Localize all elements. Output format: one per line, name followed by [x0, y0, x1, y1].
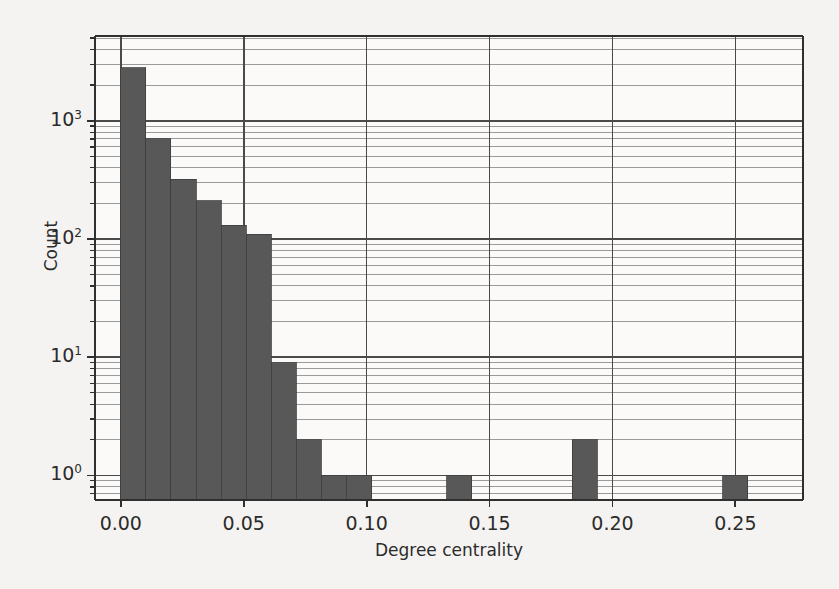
histogram-figure: Count Degree centrality 0.000.050.100.15… [0, 0, 839, 589]
y-tick-label: 102 [0, 226, 82, 248]
histogram-bar [196, 201, 221, 500]
y-tick-exponent: 2 [74, 226, 82, 240]
histogram-bar [321, 475, 346, 500]
x-tick-label: 0.15 [430, 512, 550, 534]
x-axis-label: Degree centrality [95, 540, 803, 560]
y-tick-mantissa: 10 [50, 463, 74, 485]
histogram-bar [146, 139, 171, 500]
histogram-bar [246, 234, 271, 500]
histogram-bar [723, 475, 748, 500]
histogram-bar [171, 179, 196, 500]
histogram-bar [271, 363, 296, 500]
y-tick-mantissa: 10 [50, 108, 74, 130]
y-tick-label: 100 [0, 462, 82, 484]
y-tick-label: 103 [0, 108, 82, 130]
histogram-bar [221, 225, 246, 500]
x-tick-label: 0.20 [552, 512, 672, 534]
plot-canvas [0, 0, 839, 589]
histogram-bar [121, 68, 146, 500]
histogram-bar [572, 440, 597, 500]
y-tick-exponent: 0 [74, 462, 82, 476]
y-tick-exponent: 3 [74, 108, 82, 122]
histogram-bar [346, 475, 371, 500]
y-tick-mantissa: 10 [50, 345, 74, 367]
histogram-bar [447, 475, 472, 500]
x-tick-label: 0.05 [184, 512, 304, 534]
x-tick-label: 0.25 [675, 512, 795, 534]
histogram-bar [296, 440, 321, 500]
y-tick-label: 101 [0, 344, 82, 366]
y-tick-mantissa: 10 [50, 226, 74, 248]
y-tick-exponent: 1 [74, 344, 82, 358]
x-tick-label: 0.00 [61, 512, 181, 534]
x-tick-label: 0.10 [307, 512, 427, 534]
